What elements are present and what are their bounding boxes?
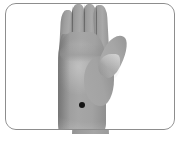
acupoint-marker [79,102,85,108]
figure-root [0,0,181,142]
photo-card [5,3,175,130]
thumb-web-space [98,54,120,80]
hand-photograph [6,4,174,129]
hand-illustration [6,4,174,129]
